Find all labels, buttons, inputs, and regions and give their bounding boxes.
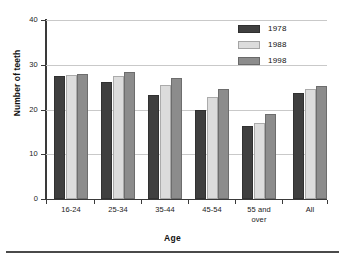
x-tick-1	[94, 200, 95, 204]
legend-swatch-1998	[238, 57, 260, 65]
bar-1998-16-24	[77, 74, 88, 199]
y-tick-label-10: 10	[14, 149, 38, 158]
legend-item-1998: 1998	[238, 54, 320, 67]
x-tick-3	[188, 200, 189, 204]
bar-1988-35-44	[160, 85, 171, 199]
legend-swatch-1978	[238, 25, 260, 33]
chart-legend: 197819881998	[238, 22, 320, 70]
x-axis-title: Age	[0, 233, 345, 243]
bar-1988-45-54	[207, 97, 218, 199]
bar-1978-All	[293, 93, 304, 199]
x-tick-0	[46, 200, 47, 204]
bar-1978-35-44	[148, 95, 159, 199]
bar-1998-45-54	[218, 89, 229, 199]
y-tick-label-0: 0	[14, 194, 38, 203]
bar-chart-figure: 010203040 Number of teeth 16-2425-3435-4…	[0, 0, 345, 259]
x-tick-6	[327, 200, 328, 204]
bar-1978-16-24	[54, 76, 65, 199]
bar-1978-55-and-over	[242, 126, 253, 199]
x-tick-2	[141, 200, 142, 204]
y-axis-title: Number of teeth	[12, 23, 22, 143]
bar-1988-55-and-over	[254, 123, 265, 199]
x-tick-label-line: over	[229, 215, 289, 225]
x-tick-4	[235, 200, 236, 204]
legend-label-1978: 1978	[268, 24, 287, 33]
bar-group	[195, 20, 229, 199]
bar-1998-All	[316, 86, 327, 199]
legend-label-1998: 1998	[268, 56, 287, 65]
bar-group	[101, 20, 135, 199]
x-tick-5	[282, 200, 283, 204]
bar-1978-25-34	[101, 82, 112, 199]
bar-1998-25-34	[124, 72, 135, 199]
bar-group	[54, 20, 88, 199]
legend-item-1978: 1978	[238, 22, 320, 35]
bar-1998-55-and-over	[265, 114, 276, 199]
bar-group	[148, 20, 182, 199]
bar-1998-35-44	[171, 78, 182, 199]
bar-1988-16-24	[66, 75, 77, 199]
bar-1988-All	[305, 89, 316, 199]
page-divider-rule	[6, 251, 339, 253]
x-tick-label-All: All	[280, 205, 340, 215]
bar-1978-45-54	[195, 110, 206, 200]
legend-item-1988: 1988	[238, 38, 320, 51]
legend-swatch-1988	[238, 41, 260, 49]
x-tick-label-line: All	[280, 205, 340, 215]
legend-label-1988: 1988	[268, 40, 287, 49]
bar-1988-25-34	[113, 76, 124, 199]
